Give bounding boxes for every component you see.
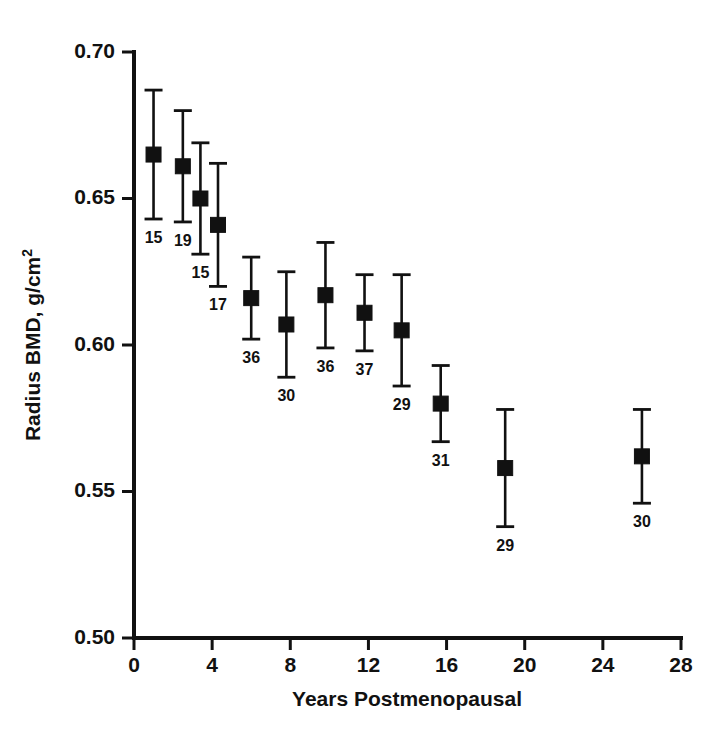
- y-axis-title-main: Radius BMD, g/cm: [21, 257, 44, 441]
- bmd-scatter-errorbar-chart: 0.500.550.600.650.70 0481216202428 Years…: [0, 0, 726, 738]
- x-axis-ticks: 0481216202428: [128, 638, 693, 676]
- y-tick-label: 0.60: [74, 332, 115, 355]
- y-axis-ticks: 0.500.550.600.650.70: [74, 39, 134, 648]
- data-point-group: [242, 257, 260, 339]
- data-point-marker: [498, 461, 513, 476]
- data-point-group: [393, 275, 411, 386]
- sample-size-labels: 151915173630363729312930: [145, 229, 651, 554]
- chart-figure: 0.500.550.600.650.70 0481216202428 Years…: [0, 0, 726, 738]
- sample-size-label: 36: [242, 349, 260, 366]
- data-point-group: [356, 275, 374, 351]
- data-point-group: [209, 163, 227, 286]
- data-point-marker: [244, 291, 259, 306]
- y-tick-label: 0.50: [74, 625, 115, 648]
- sample-size-label: 30: [277, 387, 295, 404]
- y-tick-label: 0.55: [74, 478, 115, 501]
- sample-size-label: 30: [633, 513, 651, 530]
- data-point-group: [277, 272, 295, 377]
- data-point-marker: [211, 217, 226, 232]
- sample-size-label: 19: [174, 232, 192, 249]
- x-tick-label: 0: [128, 653, 140, 676]
- sample-size-label: 15: [145, 229, 163, 246]
- x-tick-label: 12: [357, 653, 380, 676]
- y-axis-title-superscript: 2: [19, 249, 35, 257]
- data-point-group: [191, 143, 209, 254]
- data-point-marker: [175, 159, 190, 174]
- sample-size-label: 29: [393, 396, 411, 413]
- y-tick-label: 0.70: [74, 39, 115, 62]
- data-point-marker: [279, 317, 294, 332]
- data-point-group: [633, 409, 651, 503]
- data-point-group: [316, 242, 334, 347]
- sample-size-label: 29: [496, 537, 514, 554]
- sample-size-label: 17: [209, 296, 227, 313]
- sample-size-label: 31: [432, 452, 450, 469]
- data-point-marker: [318, 288, 333, 303]
- data-point-marker: [357, 305, 372, 320]
- data-point-marker: [433, 396, 448, 411]
- data-point-marker: [193, 191, 208, 206]
- axes: [134, 52, 681, 638]
- y-tick-label: 0.65: [74, 185, 115, 208]
- y-axis-title: Radius BMD, g/cm2: [19, 249, 44, 441]
- data-point-marker: [394, 323, 409, 338]
- data-point-group: [145, 90, 163, 219]
- x-tick-label: 4: [206, 653, 218, 676]
- x-tick-label: 20: [513, 653, 536, 676]
- x-tick-label: 8: [284, 653, 296, 676]
- x-tick-label: 24: [591, 653, 615, 676]
- sample-size-label: 37: [356, 361, 374, 378]
- sample-size-label: 36: [317, 358, 335, 375]
- data-point-marker: [634, 449, 649, 464]
- data-point-group: [496, 409, 514, 526]
- x-tick-label: 28: [669, 653, 693, 676]
- data-point-group: [432, 366, 450, 442]
- x-axis-title: Years Postmenopausal: [292, 687, 522, 710]
- data-point-group: [174, 111, 192, 222]
- x-tick-label: 16: [435, 653, 458, 676]
- data-point-marker: [146, 147, 161, 162]
- sample-size-label: 15: [192, 264, 210, 281]
